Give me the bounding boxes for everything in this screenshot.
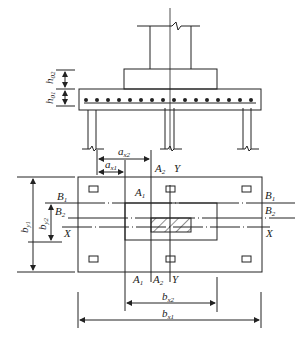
- X-right-label: X: [265, 227, 274, 239]
- svg-text:B1: B1: [57, 190, 67, 204]
- Y-bottom-label: Y: [172, 273, 180, 285]
- svg-text:A1: A1: [132, 273, 143, 287]
- Y-top-label: Y: [174, 162, 182, 174]
- svg-text:B2: B2: [55, 205, 66, 219]
- svg-text:ax2: ax2: [118, 145, 131, 159]
- elevation-view: [56, 8, 261, 151]
- svg-text:bx2: bx2: [162, 290, 175, 304]
- piles-elevation: [82, 108, 259, 151]
- svg-text:B2: B2: [265, 204, 276, 218]
- svg-text:h01: h01: [43, 92, 57, 105]
- X-left-label: X: [63, 227, 72, 239]
- pile-cap-diagram: h02 h01 ax2 ax1 A2 Y A1 B1 B2 X B1 B2 X …: [0, 0, 307, 341]
- svg-text:by1: by1: [18, 221, 32, 233]
- svg-text:by2: by2: [36, 217, 50, 230]
- labels: h02 h01 ax2 ax1 A2 Y A1 B1 B2 X B1 B2 X …: [18, 71, 276, 321]
- rebar-dots: [84, 98, 253, 102]
- svg-text:B1: B1: [265, 189, 275, 203]
- pedestal: [124, 69, 217, 89]
- svg-text:A2: A2: [152, 273, 164, 287]
- column-section: [151, 218, 191, 232]
- svg-text:h02: h02: [43, 71, 57, 84]
- svg-text:ax1: ax1: [105, 158, 117, 172]
- svg-text:A2: A2: [154, 162, 166, 176]
- svg-text:bx1: bx1: [162, 307, 174, 321]
- svg-text:A1: A1: [134, 186, 145, 200]
- plan-view: [17, 150, 295, 328]
